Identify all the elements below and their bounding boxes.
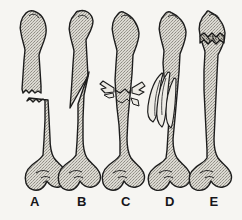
bone-a-proximal-fragment bbox=[20, 11, 46, 93]
bone-d bbox=[148, 12, 191, 191]
bone-illustration-canvas bbox=[0, 0, 242, 220]
bone-b bbox=[58, 10, 100, 190]
bone-a bbox=[20, 11, 67, 191]
fracture-types-figure: A B C D E bbox=[0, 0, 242, 220]
bone-c-splinter-right-1 bbox=[132, 82, 145, 95]
bone-e bbox=[189, 11, 231, 190]
bone-c-splinter-right-2 bbox=[131, 98, 139, 106]
bone-label-a: A bbox=[23, 194, 47, 209]
bone-label-d: D bbox=[158, 194, 182, 209]
bone-c bbox=[100, 12, 145, 191]
bone-c-splinter-left-2 bbox=[104, 93, 114, 98]
bone-c-splinter-left-1 bbox=[100, 81, 114, 93]
bone-label-row: A B C D E bbox=[0, 194, 242, 218]
bone-label-e: E bbox=[202, 194, 226, 209]
bone-label-b: B bbox=[70, 194, 94, 209]
bone-label-c: C bbox=[114, 194, 138, 209]
